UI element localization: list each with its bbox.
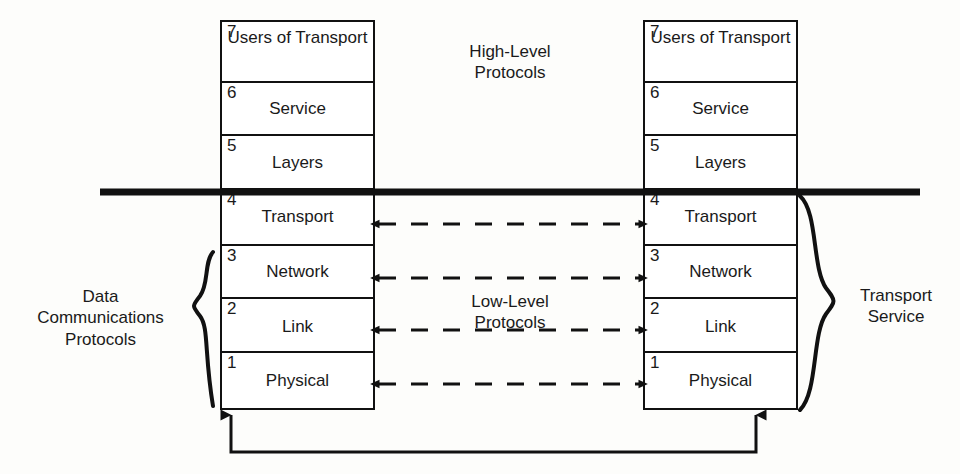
diagram-canvas: 7 Users of Transport 6 Service 5 Layers …	[0, 0, 960, 474]
low-level-protocols-label: Low-Level Protocols	[400, 292, 620, 333]
high-level-protocols-label: High-Level Protocols	[400, 42, 620, 83]
right-brace-label: Transport Service	[836, 285, 956, 328]
physical-medium-connection	[231, 415, 756, 452]
left-brace	[194, 252, 213, 406]
right-brace	[800, 196, 834, 410]
left-brace-label: Data Communications Protocols	[8, 286, 193, 350]
